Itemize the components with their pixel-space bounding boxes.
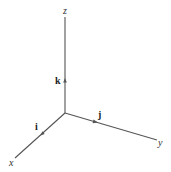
- y-axis-label: y: [157, 137, 163, 148]
- j-arrowhead-icon: [93, 120, 98, 124]
- x-axis-label: x: [8, 157, 14, 168]
- coordinate-axes-diagram: z y x k j i: [0, 0, 171, 172]
- y-axis: [65, 113, 157, 140]
- k-vector-label: k: [55, 75, 61, 86]
- i-vector-label: i: [35, 121, 38, 132]
- j-vector-label: j: [97, 109, 101, 120]
- x-axis: [15, 113, 65, 158]
- k-arrowhead-icon: [63, 78, 67, 83]
- z-axis-label: z: [62, 5, 67, 16]
